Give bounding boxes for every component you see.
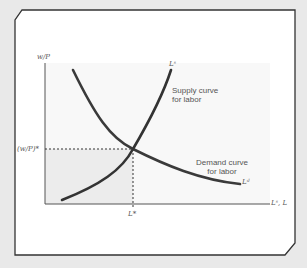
equilibrium-wage-label: (w/P)* (17, 145, 39, 153)
demand-curve-tag: Lᵈ (242, 178, 249, 186)
demand-note-line-2: for labor (196, 167, 248, 176)
chart-canvas (0, 0, 307, 268)
shaded-region (45, 149, 133, 204)
equilibrium-labor-label: L* (128, 210, 136, 218)
x-axis-label: Lˢ, L (271, 199, 287, 207)
supply-curve-note: Supply curve for labor (172, 86, 218, 104)
supply-curve-tag: Lˢ (169, 60, 176, 68)
y-axis-label: w/P (37, 53, 50, 61)
demand-curve-note: Demand curve for labor (196, 158, 248, 176)
demand-note-line-1: Demand curve (196, 158, 248, 167)
figure: w/P Lˢ, L (w/P)* L* Lˢ Lᵈ Supply curve f… (0, 0, 307, 268)
supply-note-line-1: Supply curve (172, 86, 218, 95)
supply-note-line-2: for labor (172, 95, 218, 104)
